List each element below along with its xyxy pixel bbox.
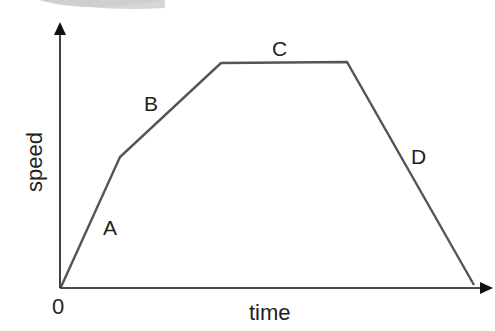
x-axis-label: time (249, 302, 291, 324)
segment-label-a: A (103, 217, 117, 238)
speed-time-graph: A B C D 0 time speed (0, 0, 495, 331)
y-axis-label: speed (24, 132, 46, 192)
segment-label-b: B (144, 93, 158, 114)
origin-label: 0 (52, 296, 64, 318)
x-axis-arrowhead-icon (480, 282, 493, 294)
speed-time-line (61, 62, 474, 287)
segment-label-d: D (411, 146, 426, 167)
y-axis-arrowhead-icon (54, 22, 66, 35)
segment-label-c: C (272, 38, 287, 59)
